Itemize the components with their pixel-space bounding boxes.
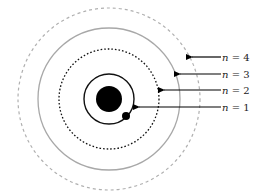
label-n3: n = 3 [222, 69, 250, 80]
bohr-atom-diagram: n = 4 n = 3 n = 2 n = 1 [0, 0, 260, 195]
label-n1: n = 1 [222, 102, 250, 113]
nucleus [96, 86, 122, 112]
label-n4: n = 4 [222, 52, 250, 63]
label-n2: n = 2 [222, 85, 250, 96]
electron [122, 112, 130, 120]
